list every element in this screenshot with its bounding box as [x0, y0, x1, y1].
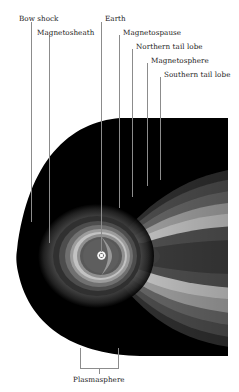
label-plasmasphere: Plasmasphere	[73, 376, 125, 383]
label-bow-shock: Bow shock	[19, 15, 59, 22]
dayside-shells	[38, 204, 154, 308]
leader-line-northern-tail-lobe	[132, 49, 133, 197]
label-magnetopause: Magnetospause	[123, 29, 181, 36]
label-southern-tail-lobe: Southern tail lobe	[164, 71, 230, 78]
leader-line-bow-shock	[31, 22, 32, 222]
magnetosphere-figure: Bow shock Magnetosheath Earth Magnetospa…	[0, 0, 239, 392]
plasmasphere-bracket-stem	[99, 368, 100, 374]
label-earth: Earth	[105, 15, 126, 22]
leader-line-earth	[101, 22, 102, 252]
leader-line-magnetosheath	[49, 35, 50, 243]
leader-line-magnetopause	[119, 35, 120, 208]
plasmasphere-bracket	[80, 348, 119, 369]
label-magnetosphere: Magnetosphere	[151, 57, 209, 64]
label-magnetosheath: Magnetosheath	[37, 29, 94, 36]
label-northern-tail-lobe: Northern tail lobe	[136, 43, 203, 50]
leader-line-southern-tail-lobe	[160, 77, 161, 180]
earth-marker	[97, 251, 105, 259]
leader-line-magnetosphere	[147, 63, 148, 186]
